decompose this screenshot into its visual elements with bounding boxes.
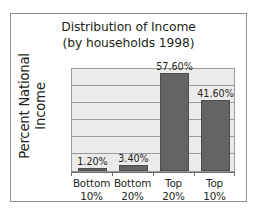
x-axis-label-line2: 20%: [153, 190, 194, 203]
x-axis-tick: [234, 172, 235, 176]
x-axis-label-bottom-20: Bottom 20%: [112, 177, 153, 202]
x-axis-label-bottom-10: Bottom 10%: [71, 177, 112, 202]
bars-layer: 1.20% 3.40% 57.60% 41.60%: [72, 69, 234, 171]
x-axis-label-line2: 20%: [112, 190, 153, 203]
bar-slot: 41.60%: [201, 69, 230, 171]
bar-bottom-20[interactable]: [119, 165, 148, 171]
chart-title: Distribution of Income (by households 19…: [11, 20, 246, 51]
chart-title-line1: Distribution of Income: [11, 20, 246, 36]
x-axis-label-line1: Top: [194, 177, 235, 190]
chart-title-line2: (by households 1998): [11, 36, 246, 52]
x-axis-label-line1: Top: [153, 177, 194, 190]
bar-label-top-20: 57.60%: [144, 61, 206, 72]
x-axis-label-line1: Bottom: [112, 177, 153, 190]
x-axis-tick: [112, 172, 113, 176]
bar-top-10[interactable]: [201, 100, 230, 171]
plot-area: 1.20% 3.40% 57.60% 41.60%: [71, 68, 235, 172]
x-axis-label-top-20: Top 20%: [153, 177, 194, 202]
x-axis-label-line2: 10%: [71, 190, 112, 203]
bar-slot: 3.40%: [119, 69, 148, 171]
x-axis-labels: Bottom 10% Bottom 20% Top 20% Top 10%: [71, 177, 235, 211]
x-axis-tick: [194, 172, 195, 176]
bar-label-top-10: 41.60%: [185, 88, 247, 99]
x-axis-tick: [71, 172, 72, 176]
bar-bottom-10[interactable]: [78, 168, 107, 171]
chart-frame: Distribution of Income (by households 19…: [10, 13, 247, 202]
x-axis-tick: [153, 172, 154, 176]
bar-label-bottom-20: 3.40%: [103, 153, 165, 164]
y-axis-label-line2: Income: [33, 53, 49, 159]
x-axis-label-top-10: Top 10%: [194, 177, 235, 202]
y-axis-label-line1: Percent National: [17, 53, 33, 159]
y-axis-label: Percent National Income: [11, 51, 55, 161]
x-axis-label-line2: 10%: [194, 190, 235, 203]
x-axis-label-line1: Bottom: [71, 177, 112, 190]
bar-slot: 57.60%: [160, 69, 189, 171]
